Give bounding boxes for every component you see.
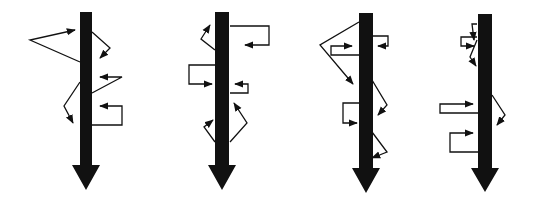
main-down-arrow-icon bbox=[208, 12, 236, 190]
zigzag-arrow-icon bbox=[204, 120, 215, 142]
loop-arrow-icon bbox=[92, 106, 122, 125]
zigzag-arrow-icon bbox=[470, 40, 477, 66]
diagram-4 bbox=[440, 14, 505, 192]
zigzag-arrow-icon bbox=[372, 132, 387, 158]
loop-arrow-icon bbox=[189, 65, 215, 84]
diagram-2 bbox=[189, 12, 269, 190]
zigzag-arrow-icon bbox=[492, 95, 505, 125]
zigzag-arrow-icon bbox=[30, 30, 80, 62]
loop-arrow-icon bbox=[372, 36, 388, 46]
diagram-3 bbox=[320, 13, 388, 193]
zigzag-arrow-icon bbox=[92, 77, 122, 93]
zigzag-arrow-icon bbox=[64, 82, 80, 123]
diagrams-group bbox=[30, 12, 505, 193]
loop-arrow-icon bbox=[331, 46, 359, 55]
figure-canvas bbox=[0, 0, 535, 206]
loop-arrow-icon bbox=[230, 26, 269, 45]
zigzag-arrow-icon bbox=[230, 103, 247, 142]
loop-arrow-icon bbox=[440, 104, 478, 113]
main-down-arrow-icon bbox=[72, 12, 100, 190]
diagram-1 bbox=[30, 12, 122, 190]
zigzag-arrow-icon bbox=[320, 22, 359, 84]
zigzag-arrow-icon bbox=[92, 32, 110, 58]
arrow-diagrams-figure bbox=[0, 0, 535, 206]
loop-arrow-icon bbox=[230, 84, 248, 93]
zigzag-arrow-icon bbox=[201, 25, 215, 50]
loop-arrow-icon bbox=[450, 133, 478, 152]
zigzag-arrow-icon bbox=[372, 80, 387, 115]
main-down-arrow-icon bbox=[471, 14, 499, 192]
loop-arrow-icon bbox=[343, 103, 359, 123]
